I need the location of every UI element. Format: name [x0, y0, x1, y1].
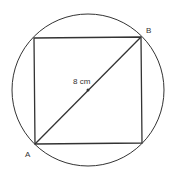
diagonal-length-label: 8 cm — [73, 77, 91, 86]
vertex-a-label: A — [25, 150, 31, 159]
vertex-b-label: B — [146, 26, 151, 35]
circle-square-diagram: 8 cm A B — [0, 0, 173, 174]
center-point — [87, 89, 90, 92]
